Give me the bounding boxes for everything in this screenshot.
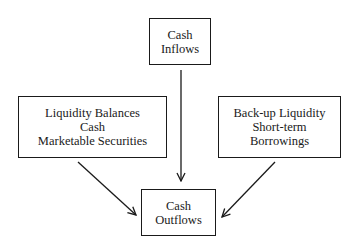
node-label-line: Cash [166, 199, 191, 213]
node-label-line: Outflows [155, 213, 202, 227]
node-label-line: Cash [80, 120, 105, 134]
arrow-liquidity-to-outflows [78, 162, 136, 215]
node-backup-liquidity: Back-up Liquidity Short-term Borrowings [218, 96, 341, 158]
node-label-line: Cash [168, 28, 193, 42]
node-cash-inflows: Cash Inflows [149, 18, 211, 65]
node-label-line: Back-up Liquidity [234, 106, 326, 120]
node-liquidity-balances: Liquidity Balances Cash Marketable Secur… [18, 96, 167, 158]
node-label-line: Borrowings [250, 134, 309, 148]
node-label-line: Short-term [252, 120, 306, 134]
node-label-line: Liquidity Balances [45, 106, 140, 120]
node-label-line: Inflows [161, 42, 199, 56]
arrow-backup-to-outflows [222, 162, 275, 217]
node-cash-outflows: Cash Outflows [141, 189, 216, 236]
node-label-line: Marketable Securities [38, 134, 147, 148]
